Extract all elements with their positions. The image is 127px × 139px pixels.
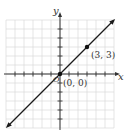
origin-label: O <box>53 75 60 84</box>
point-label: (0, 0) <box>63 78 87 88</box>
labeled-points: (0, 0)(3, 3) <box>58 45 115 88</box>
y-axis-label: y <box>52 5 59 16</box>
coordinate-plane: (0, 0)(3, 3) x y O <box>0 0 127 139</box>
x-axis-label: x <box>118 71 124 82</box>
point-label: (3, 3) <box>91 50 115 60</box>
data-point <box>85 45 89 49</box>
